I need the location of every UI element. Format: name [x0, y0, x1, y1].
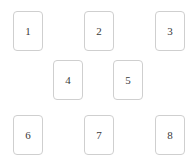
card-5-label: 5 [125, 75, 131, 86]
card-3[interactable]: 3 [155, 11, 185, 51]
card-8-label: 8 [167, 130, 173, 141]
card-4-label: 4 [65, 75, 71, 86]
card-6[interactable]: 6 [13, 115, 43, 155]
card-7[interactable]: 7 [84, 115, 114, 155]
card-6-label: 6 [25, 130, 31, 141]
card-7-label: 7 [96, 130, 102, 141]
card-1[interactable]: 1 [13, 11, 43, 51]
card-8[interactable]: 8 [155, 115, 185, 155]
card-2[interactable]: 2 [84, 11, 114, 51]
card-3-label: 3 [167, 26, 173, 37]
card-4[interactable]: 4 [53, 60, 83, 100]
card-1-label: 1 [25, 26, 31, 37]
card-2-label: 2 [96, 26, 102, 37]
card-5[interactable]: 5 [113, 60, 143, 100]
card-grid-canvas: 1 2 3 4 5 6 7 8 [0, 0, 196, 166]
